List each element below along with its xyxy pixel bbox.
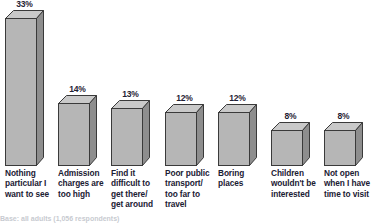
category-label-line: Admission [58,168,109,178]
bar-6: 8% [271,110,310,166]
category-label-2: Admissioncharges aretoo high [58,168,109,199]
bar-chart: 33%14%13%12%12%8%8% Nothingparticular Iw… [0,0,378,224]
footnote-text: Base: all adults (1,056 respondents) [0,216,378,223]
category-label-1: Nothingparticular Iwant to see [5,168,56,199]
bar-4: 12% [165,92,204,166]
bar-solid-5 [218,104,257,166]
bar-solid-7 [324,122,363,166]
category-label-line: charges are [58,178,109,188]
category-label-line: Poor public [165,168,216,178]
category-label-line: interested [271,189,322,199]
category-label-line: get around [111,199,162,209]
plot-area: 33%14%13%12%12%8%8% [0,0,378,168]
bar-value-label-2: 14% [58,84,97,94]
category-label-line: travel [165,199,216,209]
category-label-line: too high [58,189,109,199]
bar-3: 13% [111,88,150,166]
category-label-6: Childrenwouldn't beinterested [271,168,322,199]
category-label-line: Not open [324,168,375,178]
bar-value-label-7: 8% [324,111,363,121]
category-label-line: wouldn't be [271,178,322,188]
bar-value-label-6: 8% [271,111,310,121]
bar-solid-1 [5,10,44,166]
chart-footnote: Base: all adults (1,056 respondents) [0,216,378,224]
category-label-line: want to see [5,189,56,199]
bar-solid-4 [165,104,204,166]
bar-value-label-5: 12% [218,93,257,103]
category-label-line: get there/ [111,189,162,199]
category-label-line: too far to [165,189,216,199]
bar-2: 14% [58,83,97,166]
bar-value-label-4: 12% [165,93,204,103]
category-label-line: places [218,178,269,188]
category-label-line: Find it [111,168,162,178]
category-label-5: Boringplaces [218,168,269,189]
category-label-line: Children [271,168,322,178]
bar-7: 8% [324,110,363,166]
category-label-line: Boring [218,168,269,178]
category-label-line: when I have [324,178,375,188]
category-label-4: Poor publictransport/too far totravel [165,168,216,210]
category-label-7: Not openwhen I havetime to visit [324,168,375,199]
category-label-line: difficult to [111,178,162,188]
bar-1: 33% [5,0,44,166]
bar-solid-3 [111,100,150,166]
category-label-line: Nothing [5,168,56,178]
category-label-line: time to visit [324,189,375,199]
bar-5: 12% [218,92,257,166]
bar-value-label-3: 13% [111,89,150,99]
category-label-3: Find itdifficult toget there/get around [111,168,162,210]
bar-solid-2 [58,95,97,166]
bar-value-label-1: 33% [5,0,44,9]
category-label-line: transport/ [165,178,216,188]
bar-solid-6 [271,122,310,166]
category-label-line: particular I [5,178,56,188]
